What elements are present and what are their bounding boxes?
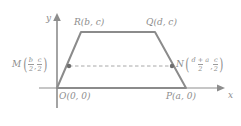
fraction-n-x-denominator: 2 [198,64,203,72]
fraction-n-x: d + a 2 [191,57,210,72]
y-axis-arrowhead [53,13,61,21]
y-axis-label: y [46,14,51,23]
vertex-label-p: P(a, 0) [166,92,196,101]
fraction-n-y-denominator: 2 [213,64,218,72]
midpoint-m-dot [67,64,71,68]
vertex-label-q: Q(d, c) [146,18,177,27]
paren-open-n: ( [186,57,190,71]
paren-close-n: ) [220,57,224,71]
fraction-n-y: c 2 [213,57,218,72]
midpoint-label-n: N ( d + a 2 , c 2 ) [176,57,225,72]
midpoint-m-name: M [12,60,21,69]
fraction-n-y-numerator: c [213,57,218,64]
midpoint-n-name: N [176,60,184,69]
fraction-m-x: b 2 [28,57,33,72]
fraction-m-x-numerator: b [28,57,33,64]
vertex-label-r: R(b, c) [74,18,104,27]
trapezoid-shape [57,32,186,88]
x-axis-label: x [228,91,233,100]
vertex-label-o: O(0, 0) [59,92,91,101]
fraction-m-x-denominator: 2 [28,64,33,72]
fraction-m-y-denominator: 2 [37,64,42,72]
fraction-m-y: c 2 [37,57,42,72]
fraction-n-x-numerator: d + a [191,57,210,64]
paren-close-m: ) [43,57,47,71]
paren-open-m: ( [23,57,27,71]
midpoint-n-dot [170,64,174,68]
coordinate-geometry-figure: y x R(b, c) Q(d, c) O(0, 0) P(a, 0) M ( … [0,0,241,126]
fraction-m-y-numerator: c [37,57,42,64]
x-axis-arrowhead [217,84,225,91]
midpoint-label-m: M ( b 2 , c 2 ) [12,57,49,72]
